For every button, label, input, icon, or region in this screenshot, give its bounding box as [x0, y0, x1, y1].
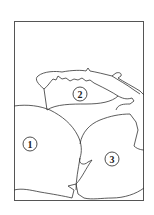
- line-drawing: 1 2 3: [0, 0, 154, 215]
- svg-text:1: 1: [28, 139, 33, 150]
- object-3-bottom: [76, 184, 144, 199]
- bowl-handle: [112, 76, 140, 94]
- frame-border: [15, 22, 144, 201]
- svg-text:3: 3: [110, 154, 115, 165]
- bowl-outline: [36, 68, 144, 95]
- object-1-outline: [14, 105, 92, 198]
- object-3-outline: [80, 114, 144, 150]
- label-2: 2: [73, 87, 87, 101]
- diagram-canvas: 1 2 3: [0, 0, 154, 215]
- label-1: 1: [23, 137, 37, 151]
- bowl-right-side: [116, 96, 134, 110]
- label-3: 3: [105, 152, 119, 166]
- svg-text:2: 2: [78, 89, 83, 100]
